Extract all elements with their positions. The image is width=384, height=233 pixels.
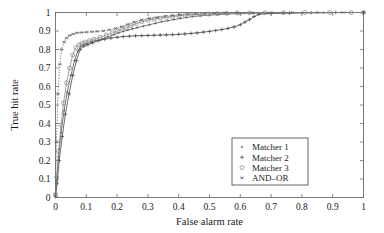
data-marker-plus: [248, 18, 252, 22]
data-marker-plus: [171, 33, 175, 37]
legend-label-4: AND–OR: [252, 173, 289, 183]
data-marker-asterisk: [75, 31, 79, 34]
series-2: [54, 11, 366, 199]
data-marker-asterisk: [126, 23, 130, 26]
x-tick-label: 0.6: [234, 202, 246, 212]
x-tick-label: 0.2: [111, 202, 123, 212]
axis-ticks: 00.10.20.30.40.50.60.70.80.9100.10.20.30…: [39, 8, 367, 212]
data-marker-dot: [160, 20, 163, 23]
x-axis-title: False alarm rate: [176, 216, 243, 227]
x-tick-label: 0.5: [204, 202, 216, 212]
data-marker-plus: [67, 92, 71, 96]
data-marker-plus: [134, 34, 138, 38]
data-marker-plus: [158, 33, 162, 37]
data-marker-plus: [177, 32, 181, 36]
data-marker-asterisk: [108, 29, 112, 32]
legend: Matcher 1Matcher 2Matcher 3AND–OR: [232, 138, 308, 185]
data-marker-asterisk: [101, 30, 105, 33]
data-marker-plus: [183, 32, 187, 36]
legend-label-1: Matcher 1: [252, 142, 289, 152]
data-marker-asterisk: [84, 31, 88, 34]
x-tick-label: 0.7: [265, 202, 277, 212]
data-marker-plus: [214, 29, 218, 33]
series-line: [56, 13, 364, 197]
data-marker-asterisk: [291, 11, 295, 14]
data-marker-dot: [63, 109, 66, 112]
data-marker-plus: [226, 27, 230, 31]
y-tick-label: 0.9: [39, 26, 51, 36]
roc-plot-svg: 00.10.20.30.40.50.60.70.80.9100.10.20.30…: [0, 0, 384, 233]
x-tick-label: 0.1: [80, 202, 92, 212]
data-marker-plus: [128, 34, 132, 38]
data-marker-plus: [232, 25, 236, 29]
data-marker-plus: [208, 29, 212, 33]
data-marker-asterisk: [65, 37, 69, 40]
data-marker-plus: [252, 15, 256, 19]
legend-label-3: Matcher 3: [252, 163, 289, 173]
data-marker-asterisk: [340, 11, 344, 14]
data-marker-asterisk: [315, 11, 319, 14]
series-4: [54, 11, 366, 195]
data-marker-dot: [154, 22, 157, 25]
x-tick-label: 1: [361, 202, 366, 212]
data-marker-asterisk: [68, 34, 72, 37]
data-marker-plus: [140, 34, 144, 38]
data-marker-plus: [195, 31, 199, 35]
y-tick-label: 0.3: [39, 137, 51, 147]
y-tick-label: 0.5: [39, 100, 51, 110]
data-marker-plus: [164, 33, 168, 37]
y-tick-label: 0.4: [39, 119, 51, 129]
data-marker-dot: [148, 23, 151, 26]
data-marker-asterisk: [90, 30, 94, 33]
y-tick-label: 0.7: [39, 63, 51, 73]
data-marker-plus: [243, 20, 247, 24]
data-marker-plus: [238, 23, 242, 27]
roc-chart-figure: 00.10.20.30.40.50.60.70.80.9100.10.20.30…: [0, 0, 384, 233]
y-tick-label: 0: [46, 193, 51, 203]
x-tick-label: 0.3: [142, 202, 154, 212]
data-marker-plus: [146, 34, 150, 38]
series-group: [54, 11, 366, 199]
y-tick-label: 1: [46, 8, 51, 18]
data-marker-dot: [136, 26, 139, 29]
data-marker-asterisk: [140, 19, 144, 22]
data-marker-asterisk: [80, 31, 84, 34]
series-3: [54, 11, 366, 198]
y-axis-title: True hit rate: [9, 79, 20, 131]
x-tick-label: 0: [53, 202, 58, 212]
data-marker-dot: [66, 91, 69, 94]
x-tick-label: 0.8: [296, 202, 308, 212]
data-marker-asterisk: [71, 33, 75, 36]
data-marker-plus: [288, 11, 292, 15]
data-marker-asterisk: [95, 30, 99, 33]
data-marker-plus: [115, 35, 119, 39]
x-tick-label: 0.9: [327, 202, 339, 212]
data-marker-dot: [167, 19, 170, 22]
y-tick-label: 0.1: [39, 174, 51, 184]
legend-label-2: Matcher 2: [252, 153, 289, 163]
data-marker-plus: [201, 30, 205, 34]
data-marker-plus: [189, 32, 193, 36]
y-tick-label: 0.8: [39, 45, 51, 55]
data-marker-plus: [152, 33, 156, 37]
y-tick-label: 0.2: [39, 156, 51, 166]
y-tick-label: 0.6: [39, 82, 51, 92]
data-marker-plus: [220, 28, 224, 32]
data-marker-plus: [121, 35, 125, 39]
x-tick-label: 0.4: [173, 202, 185, 212]
data-marker-asterisk: [58, 63, 62, 66]
data-marker-dot: [142, 25, 145, 28]
